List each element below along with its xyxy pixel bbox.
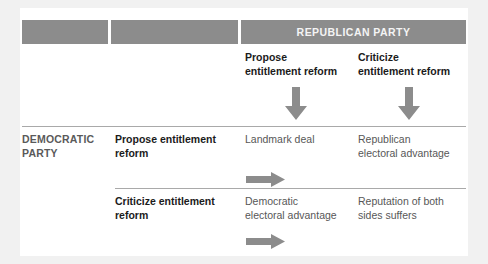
democratic-party-label-line-2: PARTY: [22, 146, 110, 160]
arrow-right-icon: [246, 234, 286, 249]
column-header-propose-line-2: entitlement reform: [245, 64, 363, 78]
row-strategy-criticize-entitlement-reform: Criticize entitlement reform: [115, 194, 240, 222]
column-header-criticize-line-1: Criticize: [358, 50, 476, 64]
row-strategy-propose-line-2: reform: [115, 146, 240, 160]
payoff-cell-propose-criticize-line-1: Republican: [358, 132, 473, 146]
row-strategy-criticize-line-2: reform: [115, 208, 240, 222]
payoff-cell-criticize-criticize-line-2: sides suffers: [358, 208, 473, 222]
payoff-cell-criticize-propose: Democratic electoral advantage: [245, 194, 360, 222]
table-row: DEMOCRATIC PARTY Propose entitlement ref…: [20, 132, 468, 188]
arrow-down-icon: [284, 87, 308, 120]
row-strategy-propose-line-1: Propose entitlement: [115, 132, 240, 146]
payoff-cell-propose-propose-line-1: Landmark deal: [245, 132, 360, 146]
figure-panel: REPUBLICAN PARTY Propose entitlement ref…: [20, 8, 468, 256]
payoff-cell-propose-criticize-line-2: electoral advantage: [358, 146, 473, 160]
arrow-right-icon: [246, 172, 286, 187]
payoff-cell-criticize-criticize: Reputation of both sides suffers: [358, 194, 473, 222]
payoff-cell-criticize-criticize-line-1: Reputation of both: [358, 194, 473, 208]
payoff-cell-criticize-propose-line-1: Democratic: [245, 194, 360, 208]
arrow-down-icon: [397, 87, 421, 120]
republican-party-label: REPUBLICAN PARTY: [241, 20, 466, 44]
democratic-party-label: DEMOCRATIC PARTY: [22, 132, 110, 160]
payoff-matrix-figure: REPUBLICAN PARTY Propose entitlement ref…: [0, 0, 488, 264]
column-header-criticize-line-2: entitlement reform: [358, 64, 476, 78]
banner-segment-republican-party: REPUBLICAN PARTY: [241, 20, 466, 44]
payoff-cell-propose-criticize: Republican electoral advantage: [358, 132, 473, 160]
divider-above-row-criticize: [115, 188, 466, 189]
row-strategy-criticize-line-1: Criticize entitlement: [115, 194, 240, 208]
payoff-cell-propose-propose: Landmark deal: [245, 132, 360, 146]
column-header-criticize-entitlement-reform: Criticize entitlement reform: [358, 50, 476, 78]
row-strategy-propose-entitlement-reform: Propose entitlement reform: [115, 132, 240, 160]
column-header-propose-line-1: Propose: [245, 50, 363, 64]
column-header-propose-entitlement-reform: Propose entitlement reform: [245, 50, 363, 78]
banner-segment-blank-left: [22, 20, 108, 44]
table-row: Criticize entitlement reform Democratic …: [20, 194, 468, 250]
banner-segment-blank-mid: [111, 20, 238, 44]
divider-above-row-propose: [22, 126, 466, 127]
payoff-cell-criticize-propose-line-2: electoral advantage: [245, 208, 360, 222]
democratic-party-label-line-1: DEMOCRATIC: [22, 132, 110, 146]
